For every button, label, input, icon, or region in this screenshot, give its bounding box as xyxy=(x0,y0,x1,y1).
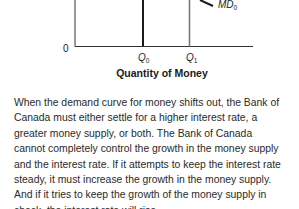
caption-line: When the demand curve for money shifts o… xyxy=(14,97,279,108)
md0-leader-line xyxy=(200,0,213,6)
q0-label-base: Q xyxy=(138,52,146,63)
q1-label: Q1 xyxy=(186,53,197,65)
q1-label-sub: 1 xyxy=(194,57,198,64)
md0-label-sub: 0 xyxy=(234,4,238,11)
q1-label-base: Q xyxy=(186,52,194,63)
caption-line: and the interest rate. If it attempts to… xyxy=(14,159,281,170)
md0-label: MD0 xyxy=(218,0,237,12)
figure-caption: When the demand curve for money shifts o… xyxy=(14,95,299,209)
caption-line: cannot completely control the growth in … xyxy=(14,143,279,154)
caption-line: greater money supply, or both. The Bank … xyxy=(14,128,252,139)
caption-line: steady, it must increase the growth in t… xyxy=(14,174,271,185)
origin-label: 0 xyxy=(63,44,69,54)
caption-line: check, the interest rate will rise. xyxy=(14,205,159,209)
money-market-chart: 0 Q0 Q1 MD0 Quantity of Money xyxy=(0,0,299,84)
q0-label-sub: 0 xyxy=(146,57,150,64)
q0-label: Q0 xyxy=(138,53,149,65)
x-axis-title: Quantity of Money xyxy=(0,67,299,79)
caption-line: Canada must either settle for a higher i… xyxy=(14,112,257,123)
md0-label-base: MD xyxy=(218,0,234,10)
caption-line: And if it tries to keep the growth of th… xyxy=(14,189,266,200)
